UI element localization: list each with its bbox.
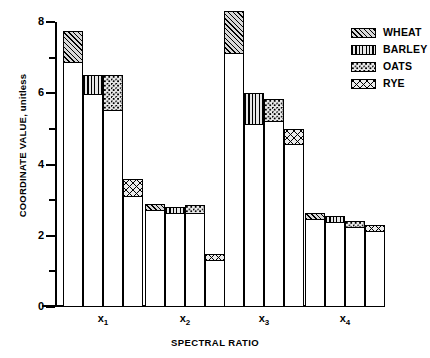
y-tick-label: 6 [14, 87, 44, 98]
y-tick-label: 4 [14, 159, 44, 170]
bar-segment-barley [244, 93, 264, 125]
y-tick-major [46, 21, 55, 23]
bar-body-oats [103, 111, 123, 307]
spectral-ratio-bar-chart: COORDINATE VALUE, unitless 02468 x1x2x3x… [0, 0, 430, 358]
plot-area [57, 22, 315, 307]
bar-segment-wheat [305, 213, 325, 220]
y-tick-label: 8 [14, 16, 44, 27]
bar-segment-wheat [63, 31, 83, 63]
bar-group [63, 22, 143, 307]
legend-label: WHEAT [383, 27, 422, 38]
bar-segment-wheat [145, 204, 165, 211]
y-tick-label: 0 [14, 301, 44, 312]
y-tick-label: 2 [14, 230, 44, 241]
bar-body-wheat [63, 63, 83, 307]
bar-body-oats [345, 228, 365, 307]
x-axis-title: SPECTRAL RATIO [130, 337, 300, 348]
bar-segment-rye [123, 179, 143, 197]
x-axis-label-x3: x3 [234, 312, 294, 327]
bar-body-rye [284, 145, 304, 307]
bar-body-oats [264, 122, 284, 307]
bar-body-rye [123, 197, 143, 307]
legend-swatch-wheat-icon [351, 28, 376, 38]
bar-segment-rye [284, 129, 304, 145]
bar-segment-barley [325, 216, 345, 223]
bar-body-wheat [305, 220, 325, 307]
legend-item-barley: BARLEY [351, 41, 427, 58]
y-tick-minor [49, 270, 55, 272]
bar-segment-wheat [224, 11, 244, 54]
bar-body-wheat [145, 211, 165, 307]
bar-segment-oats [345, 221, 365, 228]
bar-body-barley [165, 214, 185, 307]
bar-segment-oats [264, 99, 284, 122]
bar-group [145, 22, 225, 307]
bar-segment-oats [103, 75, 123, 111]
legend-label: BARLEY [383, 44, 427, 55]
bar-body-rye [365, 232, 385, 307]
bar-body-oats [185, 214, 205, 307]
legend-label: OATS [383, 61, 412, 72]
bar-segment-rye [365, 225, 385, 232]
legend-swatch-rye-icon [351, 79, 376, 89]
bar-segment-barley [165, 207, 185, 214]
legend-item-oats: OATS [351, 58, 427, 75]
y-tick-minor [49, 57, 55, 59]
legend-label: RYE [383, 78, 405, 89]
y-tick-major [46, 235, 55, 237]
y-tick-minor [49, 199, 55, 201]
bar-body-wheat [224, 54, 244, 307]
legend-item-rye: RYE [351, 75, 427, 92]
y-tick-minor [49, 128, 55, 130]
x-axis-label-x1: x1 [73, 312, 133, 327]
bar-body-barley [83, 95, 103, 307]
chart-legend: WHEATBARLEYOATSRYE [351, 24, 427, 92]
bar-segment-oats [185, 205, 205, 213]
legend-item-wheat: WHEAT [351, 24, 427, 41]
legend-swatch-barley-icon [351, 45, 376, 55]
legend-swatch-oats-icon [351, 62, 376, 72]
bar-body-barley [244, 125, 264, 307]
y-tick-major [46, 92, 55, 94]
x-axis-label-x2: x2 [155, 312, 215, 327]
x-axis-label-x4: x4 [315, 312, 375, 327]
y-tick-major [46, 164, 55, 166]
bar-segment-barley [83, 75, 103, 95]
bar-group [224, 22, 304, 307]
bar-segment-rye [205, 254, 225, 261]
bar-body-barley [325, 223, 345, 307]
bar-body-rye [205, 261, 225, 307]
